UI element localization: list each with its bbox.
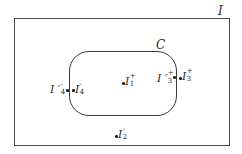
outer-region-label: I xyxy=(218,5,223,17)
point-I3-plus-label: I + 3 xyxy=(182,71,193,82)
point-I3-prime-plus-dot xyxy=(173,76,176,79)
point-I2-minus-label: I - 2 xyxy=(118,129,127,140)
point-I3-prime-plus-label: I ′ + 3 xyxy=(157,73,174,84)
point-I1-plus-label: I + 1 xyxy=(125,76,136,87)
inner-region-label: C xyxy=(156,39,165,51)
point-I4-prime-minus-label: I ′ - 4 xyxy=(50,84,65,95)
point-I4-prime-minus-dot xyxy=(66,89,69,92)
point-I4-minus-label: I - 4 xyxy=(75,84,84,95)
